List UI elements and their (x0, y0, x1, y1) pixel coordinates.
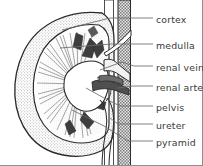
label-pelvis: pelvis (156, 103, 184, 113)
kidney-diagram-figure: cortex medulla renal vein renal artery p… (0, 0, 203, 166)
label-renal-vein: renal vein (156, 63, 203, 73)
label-cortex: cortex (156, 15, 186, 25)
leader-ureter (110, 118, 153, 124)
label-renal-artery: renal artery (156, 83, 203, 93)
label-pyramid: pyramid (156, 138, 196, 148)
label-medulla: medulla (156, 41, 195, 51)
label-ureter: ureter (156, 121, 186, 131)
